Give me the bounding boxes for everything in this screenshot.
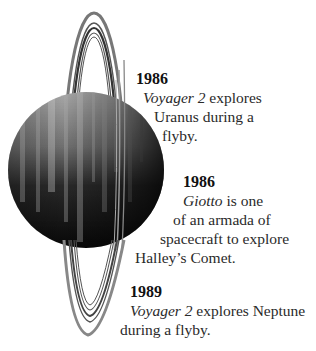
entry-year: 1989 — [130, 282, 305, 301]
spacecraft-name: Voyager 2 — [130, 302, 192, 319]
entry-line: during a flyby. — [120, 320, 305, 339]
entry-line: Giotto is one — [183, 191, 289, 210]
entry-line: spacecraft to explore — [160, 229, 289, 248]
entry-line: Voyager 2 explores — [136, 88, 262, 107]
entry-line: Halley’s Comet. — [135, 248, 289, 267]
spacecraft-name: Giotto — [183, 192, 223, 209]
entry-year: 1986 — [183, 172, 289, 191]
timeline-entry-uranus: 1986 Voyager 2 explores Uranus during a … — [136, 69, 262, 145]
entry-line: Uranus during a — [136, 107, 262, 126]
entry-year: 1986 — [136, 69, 262, 88]
timeline-entry-halley: 1986 Giotto is one of an armada of space… — [183, 172, 289, 267]
entry-line: Voyager 2 explores Neptune — [130, 301, 305, 320]
entry-line: of an armada of — [173, 210, 289, 229]
ring-arcs-lower — [64, 240, 124, 335]
spacecraft-name: Voyager 2 — [143, 89, 205, 106]
entry-line: flyby. — [136, 126, 262, 145]
timeline-entry-neptune: 1989 Voyager 2 explores Neptune during a… — [130, 282, 305, 339]
